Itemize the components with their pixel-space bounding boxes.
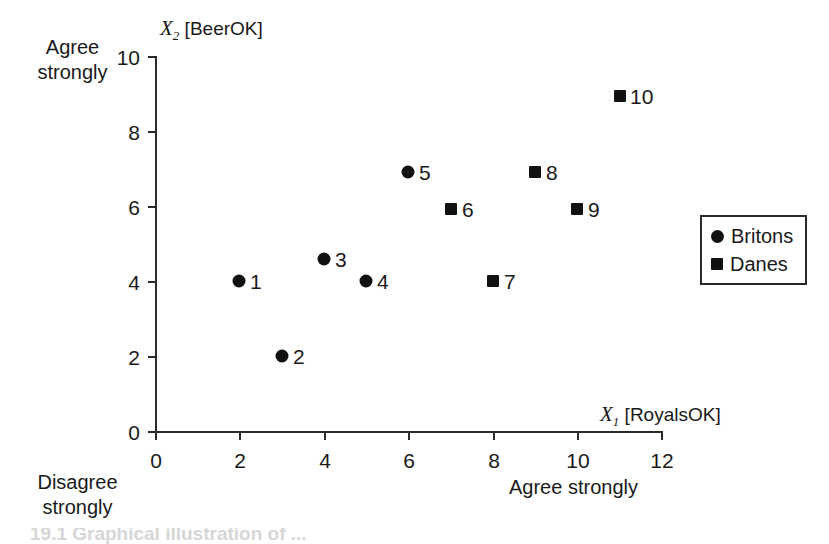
data-point-marker[interactable] bbox=[318, 253, 331, 266]
data-point-marker[interactable] bbox=[276, 350, 289, 363]
legend-square-icon bbox=[711, 258, 723, 270]
x-tick-4 bbox=[324, 431, 326, 440]
x-tick-label-4: 4 bbox=[319, 450, 331, 471]
x-tick-2 bbox=[239, 431, 241, 440]
data-point-label: 1 bbox=[250, 271, 262, 292]
legend-circle-icon bbox=[711, 230, 724, 243]
y-tick-label-0: 0 bbox=[110, 422, 140, 443]
legend-label-danes: Danes bbox=[730, 253, 788, 275]
data-point-marker[interactable] bbox=[571, 203, 583, 215]
y-axis-title-rest: [BeerOK] bbox=[179, 18, 262, 39]
y-tick-label-6: 6 bbox=[110, 197, 140, 218]
data-point-label: 4 bbox=[377, 271, 389, 292]
x-axis-title-var: X bbox=[600, 402, 613, 426]
data-point-label: 10 bbox=[630, 86, 653, 107]
data-point-label: 2 bbox=[293, 346, 305, 367]
x-axis-title: X1 [RoyalsOK] bbox=[600, 404, 721, 432]
y-axis-top-anchor: Agree strongly bbox=[20, 35, 125, 85]
scatter-plot-figure: 10 8 6 4 2 0 0 2 4 6 8 10 12 X2 [BeerOK]… bbox=[0, 0, 829, 544]
data-point-label: 5 bbox=[419, 162, 431, 183]
legend-label-britons: Britons bbox=[731, 225, 793, 247]
x-tick-label-2: 2 bbox=[234, 450, 246, 471]
figure-caption-clipped: 19.1 Graphical illustration of ... bbox=[30, 528, 430, 544]
y-axis-bottom-anchor-line1: Disagree bbox=[37, 471, 117, 493]
data-point-marker[interactable] bbox=[233, 275, 246, 288]
data-point-marker[interactable] bbox=[529, 166, 541, 178]
x-tick-8 bbox=[493, 431, 495, 440]
data-point-marker[interactable] bbox=[402, 166, 415, 179]
y-axis-title: X2 [BeerOK] bbox=[160, 18, 263, 46]
y-axis-title-var: X bbox=[160, 16, 173, 40]
y-tick-label-4: 4 bbox=[110, 272, 140, 293]
data-point-label: 9 bbox=[588, 199, 600, 220]
x-axis-title-rest: [RoyalsOK] bbox=[619, 404, 720, 425]
legend-box: Britons Danes bbox=[700, 215, 807, 285]
x-tick-0 bbox=[155, 431, 157, 440]
x-tick-label-8: 8 bbox=[488, 450, 500, 471]
x-tick-label-12: 12 bbox=[650, 450, 673, 471]
y-axis-bottom-anchor: Disagree strongly bbox=[20, 470, 135, 520]
data-point-label: 8 bbox=[546, 162, 558, 183]
y-axis-top-anchor-line2: strongly bbox=[37, 61, 107, 83]
x-tick-12 bbox=[661, 431, 663, 440]
data-point-label: 3 bbox=[335, 249, 347, 270]
y-axis-bottom-anchor-line2: strongly bbox=[42, 496, 112, 518]
data-point-marker[interactable] bbox=[360, 275, 373, 288]
data-point-marker[interactable] bbox=[487, 275, 499, 287]
figure-caption-text: 19.1 Graphical illustration of ... bbox=[30, 528, 307, 544]
y-tick-6 bbox=[148, 206, 156, 208]
y-axis-line bbox=[155, 56, 157, 433]
legend-item-danes[interactable]: Danes bbox=[711, 253, 788, 275]
y-tick-label-2: 2 bbox=[110, 347, 140, 368]
x-tick-6 bbox=[408, 431, 410, 440]
data-point-marker[interactable] bbox=[445, 203, 457, 215]
y-tick-8 bbox=[148, 131, 156, 133]
x-tick-label-6: 6 bbox=[403, 450, 415, 471]
x-tick-label-10: 10 bbox=[566, 450, 589, 471]
y-tick-4 bbox=[148, 281, 156, 283]
legend-item-britons[interactable]: Britons bbox=[711, 225, 793, 247]
y-axis-top-anchor-line1: Agree bbox=[46, 36, 99, 58]
x-axis-right-anchor: Agree strongly bbox=[509, 475, 638, 500]
data-point-label: 7 bbox=[504, 271, 516, 292]
x-tick-label-0: 0 bbox=[150, 450, 162, 471]
x-tick-10 bbox=[577, 431, 579, 440]
y-tick-label-8: 8 bbox=[110, 122, 140, 143]
data-point-marker[interactable] bbox=[614, 90, 626, 102]
y-tick-10 bbox=[148, 56, 156, 58]
data-point-label: 6 bbox=[462, 199, 474, 220]
y-tick-2 bbox=[148, 356, 156, 358]
